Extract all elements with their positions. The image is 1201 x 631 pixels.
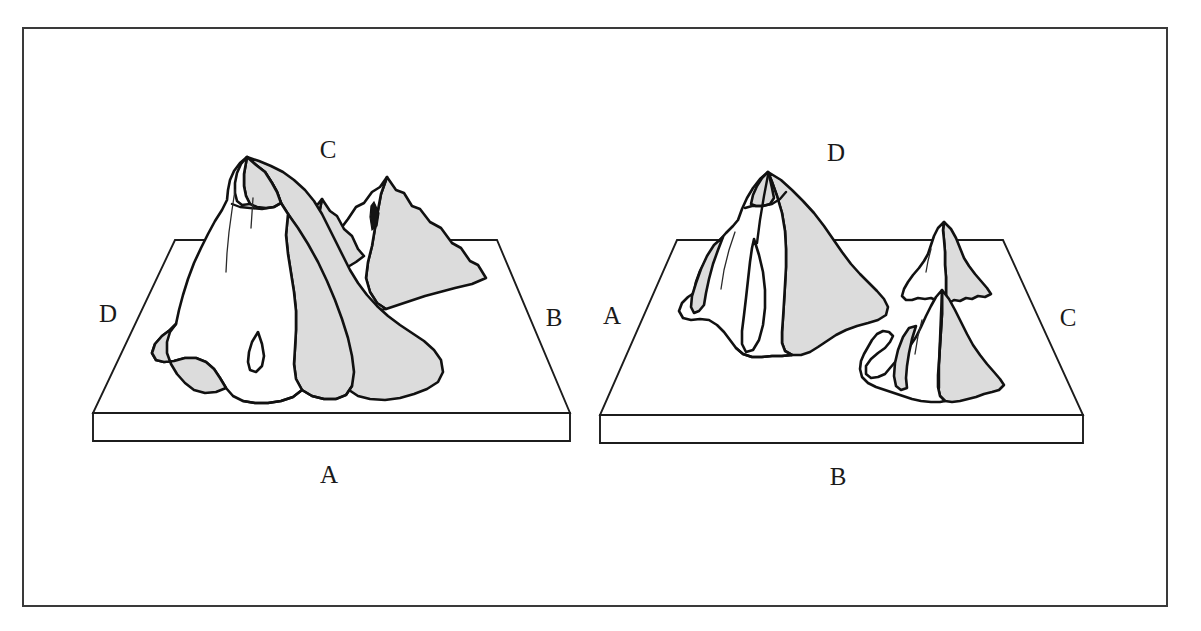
left-slab-front-face — [93, 413, 570, 441]
left-label-top: C — [320, 136, 337, 163]
right-label-right: C — [1060, 304, 1077, 331]
left-label-bottom: A — [320, 461, 338, 488]
left-block-diagram: C D B A — [93, 136, 570, 488]
right-label-top: D — [827, 139, 845, 166]
figure-illustration: C D B A — [0, 0, 1201, 631]
figure-root: C D B A — [0, 0, 1201, 631]
right-label-left: A — [603, 302, 621, 329]
right-block-diagram: D A C B — [600, 139, 1083, 490]
right-label-bottom: B — [830, 463, 847, 490]
right-slab-front-face — [600, 415, 1083, 443]
left-label-right: B — [546, 304, 563, 331]
left-label-left: D — [99, 300, 117, 327]
